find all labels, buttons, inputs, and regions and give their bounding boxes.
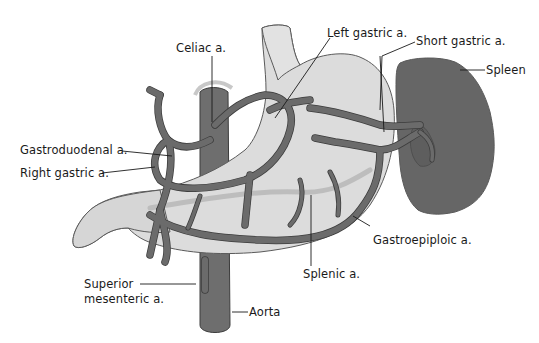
label-superior-mesenteric-line1: Superior bbox=[84, 277, 133, 291]
label-superior-mesenteric-line2: mesenteric a. bbox=[84, 292, 164, 306]
label-left-gastric-artery: Left gastric a. bbox=[327, 26, 407, 40]
label-aorta: Aorta bbox=[249, 305, 281, 319]
label-celiac-artery: Celiac a. bbox=[176, 41, 226, 55]
label-gastroepiploic-artery: Gastroepiploic a. bbox=[373, 233, 472, 247]
label-splenic-artery: Splenic a. bbox=[303, 267, 360, 281]
label-short-gastric-artery: Short gastric a. bbox=[416, 34, 506, 48]
label-spleen: Spleen bbox=[486, 63, 526, 77]
label-right-gastric-artery: Right gastric a. bbox=[20, 166, 109, 180]
label-gastroduodenal-artery: Gastroduodenal a. bbox=[20, 143, 128, 157]
